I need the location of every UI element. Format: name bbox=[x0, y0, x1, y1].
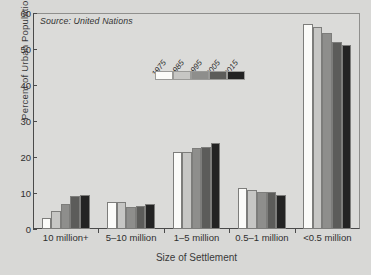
x-tick-mark bbox=[98, 229, 99, 233]
x-tick-mark bbox=[229, 229, 230, 233]
bar bbox=[342, 45, 352, 229]
bar bbox=[70, 196, 80, 229]
bar-group bbox=[303, 13, 351, 229]
y-tick-label: 30 bbox=[0, 116, 31, 127]
y-tick-label: 60 bbox=[0, 8, 31, 19]
bar-group bbox=[42, 13, 90, 229]
x-tick-label: <0.5 million bbox=[303, 232, 351, 243]
bar bbox=[332, 42, 342, 229]
bar-group bbox=[238, 13, 286, 229]
legend: 19751985199520052015 bbox=[155, 47, 255, 87]
y-tick-label: 20 bbox=[0, 152, 31, 163]
bar bbox=[136, 206, 146, 229]
bar bbox=[267, 192, 277, 229]
y-tick-mark bbox=[33, 229, 37, 230]
y-tick-label: 0 bbox=[0, 224, 31, 235]
bar bbox=[107, 202, 117, 229]
x-tick-label: 10 million+ bbox=[43, 232, 89, 243]
bar bbox=[145, 204, 155, 229]
bar bbox=[211, 143, 221, 229]
y-tick-label: 40 bbox=[0, 80, 31, 91]
legend-swatch bbox=[191, 71, 209, 80]
x-axis-title: Size of Settlement bbox=[33, 252, 360, 263]
bar bbox=[257, 192, 267, 229]
y-tick-mark bbox=[33, 49, 37, 50]
bar bbox=[303, 24, 313, 229]
bar bbox=[247, 190, 257, 229]
y-tick-mark bbox=[33, 85, 37, 86]
y-tick-label: 50 bbox=[0, 44, 31, 55]
legend-swatch bbox=[209, 71, 227, 80]
bar bbox=[117, 202, 127, 229]
bar bbox=[201, 147, 211, 229]
legend-swatch bbox=[227, 71, 245, 80]
y-tick-mark bbox=[33, 13, 37, 14]
bar bbox=[322, 33, 332, 229]
bar-chart: Percent of Urban Population Size of Sett… bbox=[0, 0, 371, 275]
bar bbox=[192, 148, 202, 229]
bar bbox=[173, 152, 183, 229]
x-tick-label: 5–10 million bbox=[106, 232, 157, 243]
x-tick-label: 1–5 million bbox=[174, 232, 219, 243]
y-tick-mark bbox=[33, 193, 37, 194]
y-tick-mark bbox=[33, 121, 37, 122]
y-tick-label: 10 bbox=[0, 188, 31, 199]
x-tick-mark bbox=[164, 229, 165, 233]
bar bbox=[42, 218, 52, 229]
bar bbox=[80, 195, 90, 229]
bar bbox=[61, 204, 71, 229]
legend-swatches bbox=[155, 71, 245, 80]
bar-group bbox=[107, 13, 155, 229]
y-tick-mark bbox=[33, 157, 37, 158]
bar bbox=[276, 195, 286, 229]
x-tick-mark bbox=[295, 229, 296, 233]
bar bbox=[126, 207, 136, 229]
bar bbox=[238, 188, 248, 229]
legend-swatch bbox=[155, 71, 173, 80]
bar bbox=[182, 152, 192, 229]
bar bbox=[51, 211, 61, 229]
legend-swatch bbox=[173, 71, 191, 80]
x-tick-label: 0.5–1 million bbox=[235, 232, 288, 243]
bar-group bbox=[173, 13, 221, 229]
bar bbox=[313, 27, 323, 229]
